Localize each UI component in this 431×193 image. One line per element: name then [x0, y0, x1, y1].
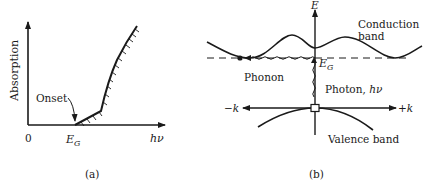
phonon-label: Phonon	[244, 71, 284, 83]
band-gap-label: EG	[318, 57, 334, 72]
valence-band-label: Valence band	[327, 133, 399, 145]
absorption-curve	[75, 26, 137, 125]
photon-label: Photon, hν	[325, 83, 383, 95]
panel-a-caption: (a)	[85, 168, 99, 180]
energy-axis-label: E	[310, 0, 319, 11]
hole-marker	[311, 105, 319, 112]
panel-b-caption: (b)	[309, 168, 324, 180]
onset-arrow	[68, 98, 75, 121]
phonon-arrowhead	[244, 55, 251, 61]
electron-dot	[237, 55, 242, 60]
figure-canvas: Absorption Onset 0 EG hν (a) E	[0, 0, 431, 193]
panel-a: Absorption Onset 0 EG hν (a)	[8, 22, 165, 180]
positive-k-label: +k	[398, 102, 413, 114]
y-axis-label: Absorption	[8, 40, 21, 102]
panel-b: E Conduction band EG Phonon Photon, hν −…	[207, 0, 423, 180]
origin-label: 0	[25, 132, 32, 144]
onset-label: Onset	[36, 92, 68, 104]
conduction-band-label: Conduction band	[358, 18, 423, 42]
gap-energy-label: EG	[65, 133, 81, 148]
photon-energy-axis-label: hν	[150, 132, 164, 145]
negative-k-label: −k	[224, 102, 239, 114]
